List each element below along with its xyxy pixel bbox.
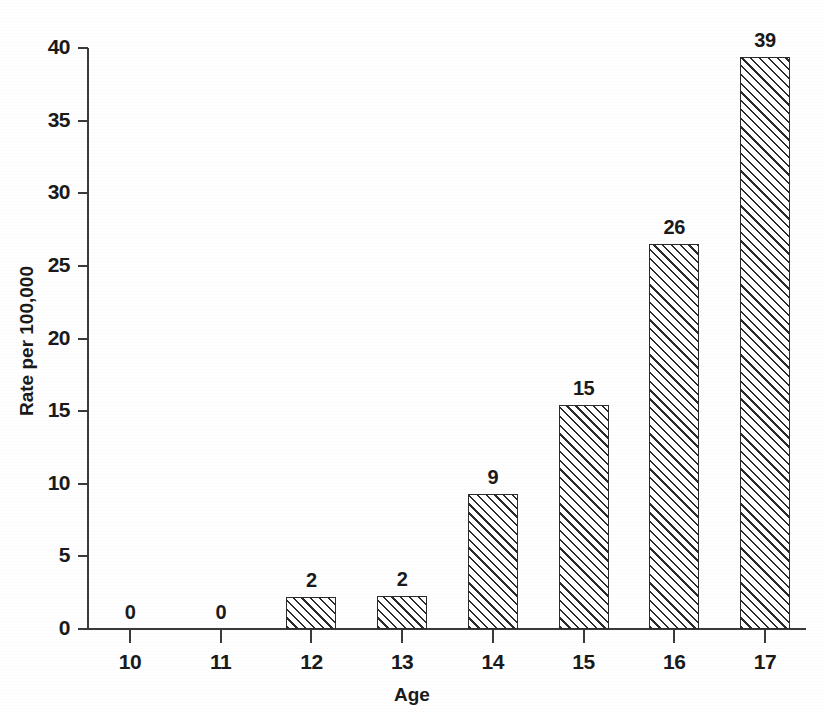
- y-tick-label: 0: [10, 616, 70, 640]
- x-tick-label: 17: [725, 650, 805, 674]
- y-tick-label-wrap: 30: [4, 180, 70, 204]
- x-tick-label: 11: [181, 650, 261, 674]
- bar-chart-figure: 0510152025303540 Rate per 100,000 101112…: [0, 0, 824, 712]
- x-tick-label: 13: [362, 650, 442, 674]
- bar: [468, 494, 518, 629]
- y-tick-label: 5: [10, 543, 70, 567]
- y-tick-label: 40: [10, 35, 70, 59]
- x-tick-label: 16: [634, 650, 714, 674]
- x-tick-label: 12: [271, 650, 351, 674]
- y-axis-title: Rate per 100,000: [16, 226, 38, 456]
- y-tick-label-wrap: 35: [4, 108, 70, 132]
- bar: [286, 597, 336, 629]
- y-tick-label-wrap: 10: [4, 471, 70, 495]
- x-tick-label: 15: [544, 650, 624, 674]
- bar-value-label: 0: [176, 601, 266, 624]
- bar-value-label: 2: [357, 568, 447, 591]
- bar-value-label: 9: [448, 466, 538, 489]
- y-tick-label: 30: [10, 180, 70, 204]
- x-axis-title: Age: [0, 684, 824, 706]
- bar: [740, 57, 790, 629]
- x-tick-label: 14: [453, 650, 533, 674]
- y-tick-label-wrap: 0: [4, 616, 70, 640]
- bar: [649, 244, 699, 629]
- y-tick-label: 10: [10, 471, 70, 495]
- bar-value-label: 26: [629, 216, 719, 239]
- bar: [377, 596, 427, 629]
- bar-value-label: 15: [539, 377, 629, 400]
- y-tick-label-wrap: 40: [4, 35, 70, 59]
- bar-value-label: 0: [85, 601, 175, 624]
- y-tick-label-wrap: 5: [4, 543, 70, 567]
- y-tick-label: 35: [10, 108, 70, 132]
- bar-value-label: 2: [266, 569, 356, 592]
- bar-value-label: 39: [720, 29, 810, 52]
- x-tick-label: 10: [90, 650, 170, 674]
- bar: [559, 405, 609, 629]
